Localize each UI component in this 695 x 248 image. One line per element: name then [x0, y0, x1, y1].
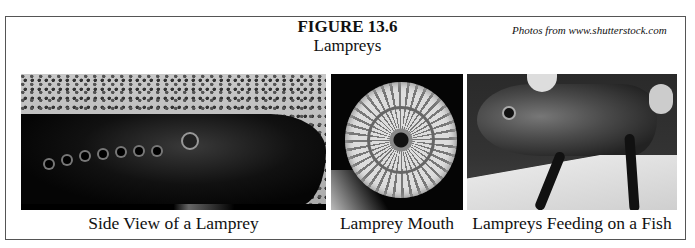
caption-feeding: Lampreys Feeding on a Fish: [462, 213, 682, 233]
white-tarp: [467, 155, 677, 210]
gill-opening: [45, 160, 53, 168]
photo-lampreys-feeding: [467, 74, 677, 210]
gill-opening: [117, 148, 125, 156]
gill-opening: [81, 152, 89, 160]
inner-tooth-ring: [367, 106, 435, 174]
gill-opening: [153, 147, 161, 155]
photo-side-view-lamprey: [21, 74, 326, 210]
lamprey-eye: [181, 132, 199, 150]
caption-mouth: Lamprey Mouth: [331, 213, 463, 233]
gravel-strip: [21, 204, 326, 210]
hand: [649, 84, 673, 114]
gill-opening: [63, 156, 71, 164]
gill-opening: [135, 147, 143, 155]
figure-title: Lampreys: [0, 37, 695, 55]
photo-credit: Photos from www.shutterstock.com: [512, 24, 667, 36]
gill-opening: [99, 150, 107, 158]
caption-side-view: Side View of a Lamprey: [21, 213, 326, 233]
fish-eye: [502, 106, 516, 120]
photo-lamprey-mouth: [331, 74, 463, 210]
